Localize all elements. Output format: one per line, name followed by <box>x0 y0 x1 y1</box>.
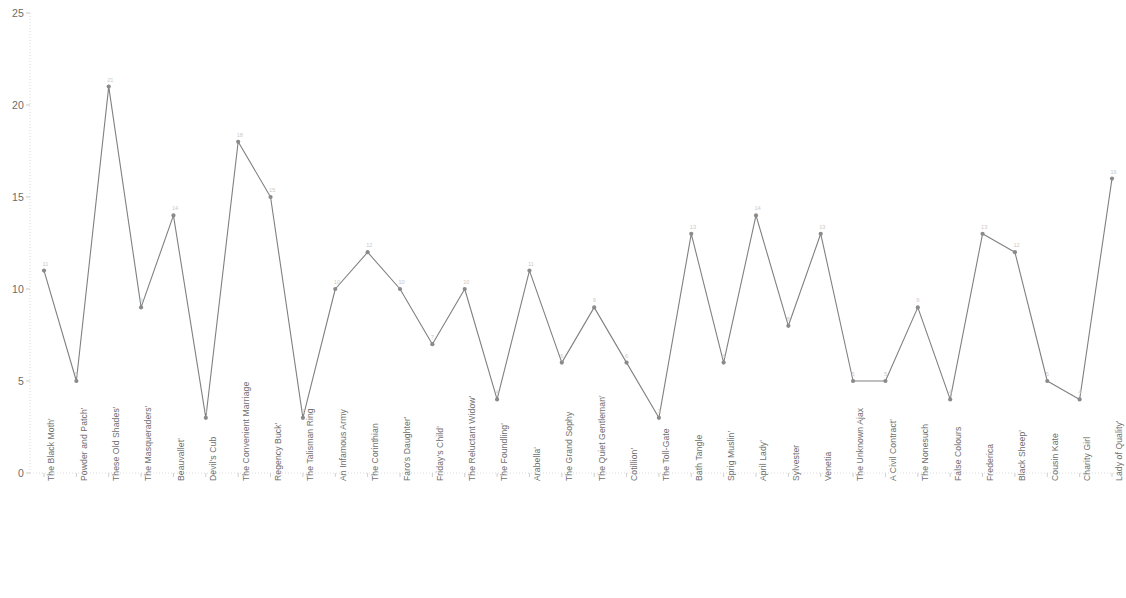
x-axis-tick-label: Cousin Kate <box>1051 433 1060 481</box>
x-axis-tick-label: The Convenient Marriage <box>242 382 251 481</box>
x-axis-tick-label: False Colours <box>954 427 963 481</box>
data-point-marker <box>42 269 46 273</box>
data-point-marker <box>74 379 78 383</box>
x-axis-tick-label: Frederica <box>986 444 995 481</box>
data-value-label: 9 <box>140 298 143 304</box>
data-value-label: 3 <box>301 409 304 415</box>
x-axis-tick-label: The Reluctant Widow' <box>468 396 477 481</box>
data-point-marker <box>592 305 596 309</box>
data-point-marker <box>980 232 984 236</box>
data-value-label: 12 <box>366 243 372 249</box>
data-value-label: 3 <box>657 409 660 415</box>
x-axis-tick-label: Sylvester <box>792 445 801 481</box>
x-axis-tick-label: The Foundling' <box>500 423 509 481</box>
data-point-marker <box>689 232 693 236</box>
x-axis-tick-label: The Corinthian <box>371 423 380 481</box>
data-value-label: 8 <box>787 317 790 323</box>
x-axis-tick-label: The Unknown Ajax <box>856 408 865 481</box>
x-axis-tick-label: Cotillion' <box>630 448 639 481</box>
y-axis-tick-label: 0 <box>0 468 24 479</box>
x-axis-tick-label: The Toll-Gate <box>662 428 671 481</box>
data-value-label: 4 <box>1078 390 1081 396</box>
data-value-label: 13 <box>819 225 825 231</box>
data-point-marker <box>819 232 823 236</box>
data-point-markers <box>42 85 1114 420</box>
data-value-label: 7 <box>431 335 434 341</box>
x-axis-tick-label: A Civil Contract' <box>889 419 898 481</box>
data-point-marker <box>560 361 564 365</box>
data-point-marker <box>495 397 499 401</box>
y-axis-tick-label: 10 <box>0 284 24 295</box>
data-value-label: 10 <box>334 280 340 286</box>
y-axis-tick-label: 20 <box>0 100 24 111</box>
data-value-label: 21 <box>107 78 113 84</box>
y-axis-tick-label: 5 <box>0 376 24 387</box>
data-point-marker <box>171 213 175 217</box>
data-point-marker <box>1045 379 1049 383</box>
x-axis-tick-label: The Grand Sophy <box>565 412 574 481</box>
data-point-marker <box>236 140 240 144</box>
data-value-label: 16 <box>1111 170 1117 176</box>
x-axis-tick-label: Charity Girl <box>1083 437 1092 481</box>
data-value-label: 14 <box>755 206 761 212</box>
data-value-label: 11 <box>528 262 534 268</box>
y-axis-tick-label: 15 <box>0 192 24 203</box>
data-value-label: 5 <box>852 372 855 378</box>
data-value-label: 6 <box>560 354 563 360</box>
data-value-label: 5 <box>75 372 78 378</box>
x-axis-tick-label: The Quiet Gentleman' <box>598 395 607 481</box>
data-value-label: 9 <box>593 298 596 304</box>
x-axis-tick-label: The Masqueraders' <box>144 406 153 481</box>
x-axis-tick-label: Beauvallet' <box>177 438 186 481</box>
data-value-label: 9 <box>916 298 919 304</box>
data-point-marker <box>883 379 887 383</box>
x-axis-tick-label: Bath Tangle <box>695 435 704 481</box>
x-axis-tick-label: Devil's Cub <box>209 437 218 481</box>
data-point-marker <box>1110 177 1114 181</box>
data-point-marker <box>948 397 952 401</box>
data-point-marker <box>754 213 758 217</box>
data-point-marker <box>657 416 661 420</box>
x-axis-tick-label: The Nonesuch <box>921 424 930 481</box>
data-value-label: 18 <box>237 133 243 139</box>
data-point-marker <box>366 250 370 254</box>
data-point-marker <box>1078 397 1082 401</box>
data-point-marker <box>916 305 920 309</box>
data-point-marker <box>527 269 531 273</box>
data-value-label: 10 <box>399 280 405 286</box>
x-axis-tick-label: Arabella' <box>533 447 542 481</box>
x-axis-tick-label: Faro's Daughter' <box>403 416 412 481</box>
x-axis-tick-label: An Infamous Army <box>339 409 348 481</box>
data-value-label: 13 <box>981 225 987 231</box>
x-axis-tick-label: Sprig Muslin' <box>727 431 736 481</box>
x-axis-tick-label: Venetia <box>824 452 833 481</box>
data-point-marker <box>430 342 434 346</box>
data-value-label: 11 <box>43 262 49 268</box>
plot-area <box>0 0 1126 598</box>
axis-layer <box>26 13 1120 477</box>
data-value-label: 5 <box>1046 372 1049 378</box>
data-value-label: 15 <box>269 188 275 194</box>
data-point-marker <box>851 379 855 383</box>
data-point-marker <box>204 416 208 420</box>
data-point-marker <box>398 287 402 291</box>
data-value-label: 3 <box>204 409 207 415</box>
x-axis-tick-label: The Black Moth' <box>47 418 56 481</box>
data-point-marker <box>139 305 143 309</box>
x-axis-tick-label: Lady of Quality' <box>1115 420 1124 481</box>
data-value-label: 6 <box>722 354 725 360</box>
data-value-label: 6 <box>625 354 628 360</box>
data-value-label: 10 <box>463 280 469 286</box>
x-axis-tick-label: The Talisman Ring <box>306 408 315 481</box>
data-point-marker <box>786 324 790 328</box>
data-value-label: 13 <box>690 225 696 231</box>
line-chart: 0510152025 The Black Moth'Powder and Pat… <box>0 0 1126 598</box>
data-point-marker <box>333 287 337 291</box>
data-value-label: 5 <box>884 372 887 378</box>
data-point-marker <box>268 195 272 199</box>
x-axis-tick-label: These Old Shades' <box>112 406 121 481</box>
data-value-label: 4 <box>949 390 952 396</box>
data-point-marker <box>722 361 726 365</box>
data-point-marker <box>624 361 628 365</box>
x-axis-tick-label: Powder and Patch' <box>80 407 89 481</box>
